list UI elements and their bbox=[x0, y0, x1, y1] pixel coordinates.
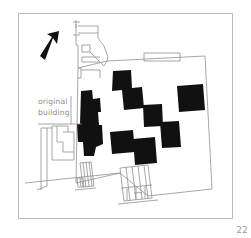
lower-road-long bbox=[25, 173, 120, 183]
footprint-block-a bbox=[112, 70, 144, 110]
road-edge-left bbox=[76, 24, 78, 68]
original-building-label-line1: original bbox=[38, 97, 68, 106]
stair-left-landing-line bbox=[80, 178, 81, 187]
original-building-label-line2: building bbox=[38, 108, 70, 117]
stair-left-line-2 bbox=[86, 163, 89, 187]
footprint-block-e bbox=[110, 130, 135, 154]
figure-page: original building 22 bbox=[0, 0, 251, 238]
stair-right-detail bbox=[134, 193, 142, 194]
left-wing-upper bbox=[78, 68, 81, 78]
footprint-block-d bbox=[177, 84, 205, 112]
stair-left-base bbox=[75, 188, 96, 190]
page-number: 22 bbox=[237, 226, 248, 235]
north-arrow-icon bbox=[40, 31, 59, 60]
small-structure-road bbox=[82, 45, 90, 52]
footprint-block-b bbox=[143, 104, 163, 127]
left-building-outline bbox=[52, 126, 74, 160]
boundary-structure-top bbox=[144, 53, 180, 61]
footprint-block-f bbox=[133, 137, 157, 165]
left-building-outline-b bbox=[57, 126, 74, 152]
left-wing-arm bbox=[81, 70, 100, 78]
road-edge-right bbox=[78, 26, 108, 61]
stair-right-cross bbox=[121, 185, 152, 188]
site-plan-drawing: original building bbox=[0, 0, 251, 238]
road-connector bbox=[90, 52, 107, 66]
footprint-original-building bbox=[77, 90, 103, 156]
stair-right-line-3 bbox=[138, 166, 142, 199]
building-footprints bbox=[77, 70, 205, 165]
footprint-block-c bbox=[160, 121, 181, 148]
